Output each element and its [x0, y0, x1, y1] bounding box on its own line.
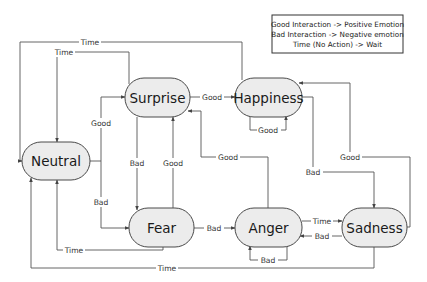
edge-label: Bad	[130, 159, 145, 168]
node-neutral: Neutral	[22, 142, 90, 180]
edge-happiness-self-good: Good	[250, 116, 286, 135]
edge-label: Time	[64, 246, 84, 255]
node-label: Sadness	[346, 220, 402, 236]
edge-label: Good	[340, 153, 360, 162]
edge-label: Bad	[261, 256, 276, 265]
edge-fear-to-surprise-good: Good	[161, 117, 185, 208]
node-anger: Anger	[235, 208, 302, 247]
legend-line-bad: Bad Interaction -> Negative emotion	[271, 30, 404, 39]
node-surprise: Surprise	[125, 78, 190, 117]
edge-surprise-to-happiness-good: Good	[190, 92, 235, 102]
edge-label: Bad	[315, 232, 330, 241]
edge-label: Bad	[207, 224, 222, 233]
emotion-state-diagram: Good Interaction -> Positive Emotion Bad…	[0, 0, 427, 282]
edge-label: Good	[163, 159, 183, 168]
edge-label: Time	[80, 38, 100, 47]
legend: Good Interaction -> Positive Emotion Bad…	[271, 15, 404, 53]
edge-label: Good	[258, 126, 278, 135]
node-label: Happiness	[233, 90, 303, 106]
edge-label: Time	[54, 48, 74, 57]
edge-surprise-to-fear-bad: Bad	[127, 117, 147, 210]
node-happiness: Happiness	[233, 78, 303, 117]
edge-label: Bad	[306, 168, 321, 177]
edge-label: Good	[91, 119, 111, 128]
edge-neutral-to-surprise-good: Good	[89, 97, 125, 161]
edge-anger-self-bad: Bad	[250, 246, 287, 265]
edge-label: Bad	[94, 198, 109, 207]
edge-sadness-to-happiness-good: Good	[299, 83, 410, 227]
edge-label: Time	[312, 217, 332, 226]
legend-line-time: Time (No Action) -> Wait	[292, 40, 382, 49]
edge-anger-to-surprise-good: Good	[188, 111, 268, 208]
node-sadness: Sadness	[342, 208, 407, 247]
node-fear: Fear	[129, 208, 194, 247]
edge-fear-to-anger-bad: Bad	[194, 223, 235, 233]
node-label: Neutral	[31, 153, 81, 169]
edge-label: Good	[218, 153, 238, 162]
node-label: Anger	[248, 220, 289, 236]
edge-neutral-to-fear-bad: Bad	[91, 161, 129, 228]
edge-sadness-to-anger-bad: Bad	[300, 231, 342, 241]
edge-anger-to-sadness-time: Time	[302, 216, 342, 226]
node-label: Surprise	[130, 90, 186, 106]
edge-label: Good	[202, 93, 222, 102]
node-label: Fear	[147, 220, 177, 236]
legend-line-good: Good Interaction -> Positive Emotion	[271, 20, 404, 29]
nodes: Neutral Surprise Happiness Fear Anger Sa…	[22, 78, 407, 247]
edge-label: Time	[157, 264, 177, 273]
